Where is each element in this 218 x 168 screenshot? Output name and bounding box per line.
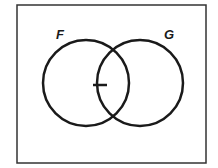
set-f-label: F: [56, 27, 65, 42]
venn-diagram: F G: [0, 0, 218, 168]
set-g-circle: [97, 40, 183, 126]
set-g-label: G: [164, 27, 174, 42]
universal-set-frame: [17, 5, 206, 163]
set-f-circle: [43, 40, 129, 126]
